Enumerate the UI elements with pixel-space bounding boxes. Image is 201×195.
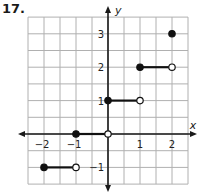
y-axis-down-arrow-icon [105, 185, 111, 192]
y-tick-label: 3 [98, 29, 104, 40]
y-tick-label: 2 [98, 62, 104, 73]
isolated-point [169, 31, 175, 37]
closed-endpoint [73, 131, 79, 137]
y-axis-up-arrow-icon [105, 6, 111, 13]
x-axis-label: x [189, 119, 197, 132]
open-endpoint [73, 164, 79, 170]
closed-endpoint [41, 164, 47, 170]
step-function-graph: xy−2−112321−1 [0, 0, 201, 195]
x-axis-left-arrow-icon [18, 131, 25, 137]
y-axis-label: y [114, 4, 122, 17]
open-endpoint [137, 97, 143, 103]
open-endpoint [105, 131, 111, 137]
closed-endpoint [137, 64, 143, 70]
y-tick-label: 1 [98, 96, 104, 107]
closed-endpoint [105, 97, 111, 103]
x-tick-label: 1 [137, 139, 143, 150]
open-endpoint [169, 64, 175, 70]
x-tick-label: −2 [35, 139, 50, 150]
x-tick-label: 2 [169, 139, 175, 150]
y-tick-label: −1 [89, 162, 104, 173]
x-tick-label: −1 [67, 139, 82, 150]
